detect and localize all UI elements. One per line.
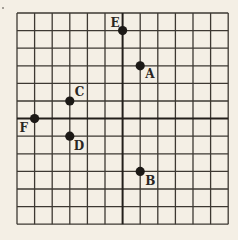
point-f: F: [20, 114, 40, 135]
point-b: B: [136, 167, 156, 189]
point-dot: [136, 61, 145, 70]
point-label: C: [75, 85, 85, 99]
point-label: B: [145, 174, 155, 188]
axes: [17, 13, 228, 224]
point-dot: [136, 167, 145, 176]
point-dot: [30, 114, 39, 123]
point-label: E: [111, 16, 120, 30]
point-a: A: [136, 61, 156, 81]
point-label: F: [20, 121, 29, 135]
point-d: D: [65, 132, 84, 154]
point-label: D: [74, 139, 84, 153]
point-c: C: [65, 85, 84, 106]
point-dot: [65, 96, 74, 105]
point-e: E: [111, 16, 128, 36]
stray-mark: [2, 7, 4, 9]
grid-canvas: EACFDB: [0, 0, 238, 240]
coordinate-grid-diagram: EACFDB: [0, 0, 238, 240]
point-label: A: [144, 67, 155, 81]
